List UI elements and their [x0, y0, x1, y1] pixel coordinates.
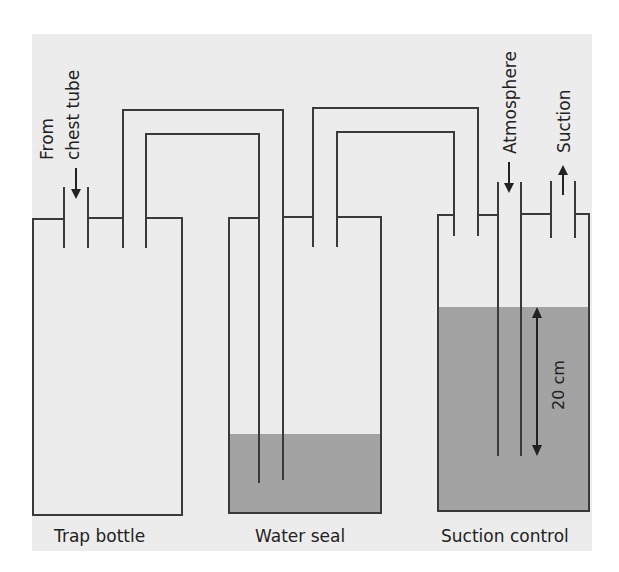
from-label: From — [37, 118, 57, 160]
height-label: 20 cm — [549, 360, 568, 410]
chest-drainage-diagram: From chest tube Atmosphere Suction 20 cm… — [0, 0, 619, 572]
suction-control-label: Suction control — [441, 526, 569, 546]
suction-label: Suction — [554, 90, 574, 153]
water-seal-water — [229, 434, 380, 513]
trap-bottle-label: Trap bottle — [53, 526, 145, 546]
atmosphere-label: Atmosphere — [500, 51, 520, 154]
chest-tube-label: chest tube — [63, 70, 83, 160]
water-seal-label: Water seal — [255, 526, 345, 546]
